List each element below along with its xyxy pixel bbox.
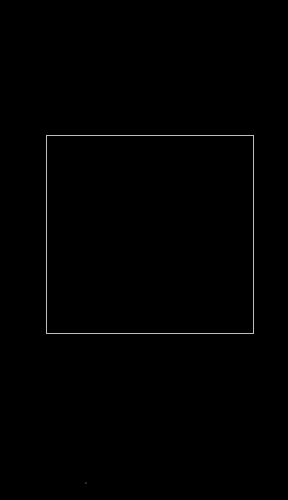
camera-viewfinder bbox=[0, 0, 288, 500]
scan-frame bbox=[46, 135, 254, 334]
indicator-dot bbox=[85, 482, 87, 484]
